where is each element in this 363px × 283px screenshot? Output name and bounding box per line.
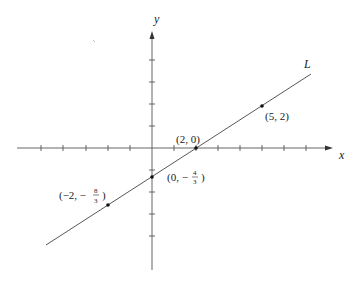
svg-text:): ): [102, 189, 106, 202]
svg-text:(−2, −: (−2, −: [59, 189, 86, 202]
svg-text:): ): [201, 171, 205, 184]
point-0-neg4over3: [150, 175, 154, 179]
diagram: y x L (2, 0) (5, 2) (0, − 4 3 ) (−2, − 8…: [0, 0, 363, 283]
point-2-0: [194, 146, 198, 150]
coordinate-plane: y x L (2, 0) (5, 2) (0, − 4 3 ) (−2, − 8…: [0, 0, 363, 283]
svg-text:4: 4: [193, 169, 197, 177]
svg-text:3: 3: [94, 197, 98, 205]
point-label-5-2: (5, 2): [265, 110, 289, 123]
line-L: [46, 74, 311, 245]
svg-text:3: 3: [193, 178, 197, 186]
line-label: L: [303, 57, 311, 71]
svg-text:8: 8: [94, 187, 98, 195]
point-label-0-neg4over3: (0, − 4 3 ): [167, 169, 205, 186]
point-label-2-0: (2, 0): [176, 133, 200, 146]
point-label-neg2-neg8over3: (−2, − 8 3 ): [59, 187, 106, 205]
stray-mark: [93, 40, 95, 42]
point-5-2: [260, 104, 264, 108]
svg-text:(0, −: (0, −: [167, 171, 188, 184]
y-axis-label: y: [153, 12, 160, 26]
x-axis-arrow-icon: [325, 146, 333, 151]
point-neg2-neg8over3: [106, 203, 110, 207]
x-axis-label: x: [338, 148, 345, 162]
y-axis-arrow-icon: [150, 31, 155, 39]
